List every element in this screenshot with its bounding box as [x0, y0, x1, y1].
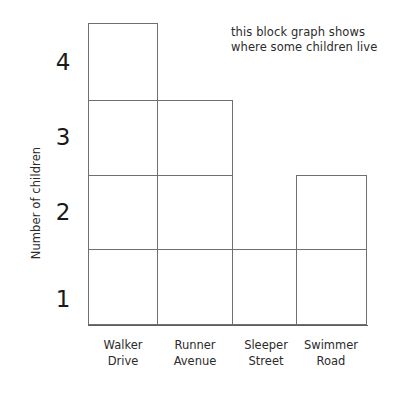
y-axis-tick-1: 1 — [46, 288, 80, 311]
block-runner-avenue-3 — [157, 100, 233, 176]
block-runner-avenue-2 — [157, 175, 233, 250]
plot-area — [88, 23, 367, 325]
x-axis-label-swimmer-road-line-2: Road — [289, 353, 373, 369]
block-sleeper-street-1 — [232, 249, 297, 325]
x-axis-label-swimmer-road: Swimmer Road — [289, 337, 373, 369]
block-walker-drive-4 — [88, 23, 158, 101]
y-axis-title: Number of children — [29, 123, 43, 283]
x-axis-line — [88, 325, 368, 326]
block-swimmer-road-2 — [296, 175, 367, 250]
y-axis-tick-4: 4 — [46, 51, 80, 74]
y-axis-tick-3: 3 — [46, 126, 80, 149]
block-walker-drive-1 — [88, 249, 158, 325]
block-walker-drive-3 — [88, 100, 158, 176]
block-swimmer-road-1 — [296, 249, 367, 325]
y-axis-tick-2: 2 — [46, 201, 80, 224]
block-graph-figure: this block graph shows where some childr… — [0, 0, 407, 396]
block-runner-avenue-1 — [157, 249, 233, 325]
block-walker-drive-2 — [88, 175, 158, 250]
x-axis-label-swimmer-road-line-1: Swimmer — [289, 337, 373, 353]
